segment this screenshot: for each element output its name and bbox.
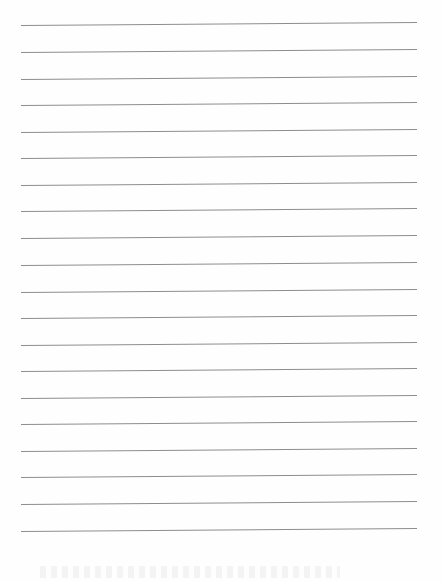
- ruled-line: [21, 22, 417, 26]
- ruled-line: [21, 49, 417, 53]
- ruled-line: [21, 208, 417, 212]
- ruled-line: [21, 421, 417, 425]
- bleed-through-text: [40, 566, 340, 578]
- ruled-line: [21, 235, 417, 239]
- ruled-line: [21, 528, 417, 532]
- ruled-lines: [0, 0, 443, 581]
- ruled-line: [21, 368, 417, 372]
- ruled-line: [21, 342, 417, 346]
- ruled-line: [21, 262, 417, 266]
- ruled-line: [21, 102, 417, 106]
- ruled-line: [21, 315, 417, 319]
- ruled-line: [21, 501, 417, 505]
- ruled-line: [21, 448, 417, 452]
- ruled-line: [21, 395, 417, 399]
- ruled-line: [21, 289, 417, 293]
- ruled-line: [21, 76, 417, 80]
- ruled-line: [21, 474, 417, 478]
- ruled-line: [21, 182, 417, 186]
- ruled-line: [21, 129, 417, 133]
- ruled-line: [21, 155, 417, 159]
- lined-paper-page: [0, 0, 443, 581]
